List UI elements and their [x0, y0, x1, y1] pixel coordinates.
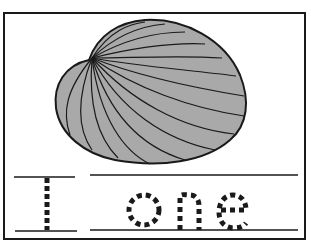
worksheet-drawing: [0, 0, 311, 245]
tracing-word-one: [129, 195, 246, 230]
clam-shell-icon: [56, 20, 246, 164]
